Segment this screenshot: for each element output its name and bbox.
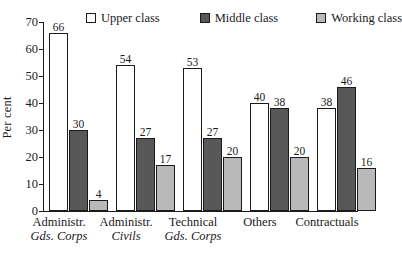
bar-working-class: 20 xyxy=(290,157,309,211)
bar-middle-class: 27 xyxy=(136,138,155,211)
bar-group-administr-civils: 54 27 17 xyxy=(116,22,176,211)
y-tick-label-60: 60 xyxy=(12,43,38,56)
y-tick-label-40: 40 xyxy=(12,97,38,110)
bar-upper-class: 54 xyxy=(116,65,135,211)
bar-value-label: 40 xyxy=(254,91,266,103)
y-tick-label-20: 20 xyxy=(12,151,38,164)
y-tick-label-10: 10 xyxy=(12,178,38,191)
x-label-line2: Gds. Corps xyxy=(153,230,233,244)
bar-working-class: 17 xyxy=(156,165,175,211)
bar-value-label: 27 xyxy=(207,126,219,138)
y-axis-line xyxy=(43,22,44,212)
bar-upper-class: 38 xyxy=(317,108,336,211)
bar-upper-class: 40 xyxy=(250,103,269,211)
bar-value-label: 17 xyxy=(160,153,172,165)
bar-middle-class: 46 xyxy=(337,87,356,211)
bar-upper-class: 53 xyxy=(183,68,202,211)
y-tick-mark-60 xyxy=(39,49,43,50)
bar-value-label: 4 xyxy=(96,188,102,200)
bar-value-label: 54 xyxy=(120,53,132,65)
bar-middle-class: 27 xyxy=(203,138,222,211)
x-axis-line xyxy=(43,211,358,212)
bar-group-administr-gds-corps: 66 30 4 xyxy=(49,22,109,211)
bar-middle-class: 38 xyxy=(270,108,289,211)
bar-value-label: 38 xyxy=(274,96,286,108)
y-tick-label-30: 30 xyxy=(12,124,38,137)
bar-value-label: 53 xyxy=(187,56,199,68)
y-tick-mark-10 xyxy=(39,184,43,185)
bar-group-others: 40 38 20 xyxy=(250,22,310,211)
bar-value-label: 20 xyxy=(294,145,306,157)
bar-working-class: 20 xyxy=(223,157,242,211)
bar-value-label: 16 xyxy=(361,156,373,168)
y-tick-mark-20 xyxy=(39,157,43,158)
plot-area: 66 30 4 54 27 17 53 xyxy=(43,22,358,212)
bar-middle-class: 30 xyxy=(69,130,88,211)
x-label-line1: Contractuals xyxy=(285,216,369,230)
bar-value-label: 38 xyxy=(321,96,333,108)
bar-working-class: 16 xyxy=(357,168,376,211)
y-tick-mark-50 xyxy=(39,76,43,77)
y-tick-mark-70 xyxy=(39,22,43,23)
bar-value-label: 30 xyxy=(73,118,85,130)
y-tick-label-70: 70 xyxy=(12,16,38,29)
x-label-contractuals: Contractuals xyxy=(285,216,369,230)
y-tick-mark-40 xyxy=(39,103,43,104)
y-tick-label-50: 50 xyxy=(12,70,38,83)
bar-upper-class: 66 xyxy=(49,33,68,211)
bar-value-label: 66 xyxy=(53,21,65,33)
bar-group-contractuals: 38 46 16 xyxy=(317,22,377,211)
bar-value-label: 20 xyxy=(227,145,239,157)
bar-group-technical-gds-corps: 53 27 20 xyxy=(183,22,243,211)
bar-value-label: 27 xyxy=(140,126,152,138)
y-tick-mark-0 xyxy=(39,211,43,212)
bar-value-label: 46 xyxy=(341,75,353,87)
y-tick-mark-30 xyxy=(39,130,43,131)
bar-working-class: 4 xyxy=(89,200,108,211)
